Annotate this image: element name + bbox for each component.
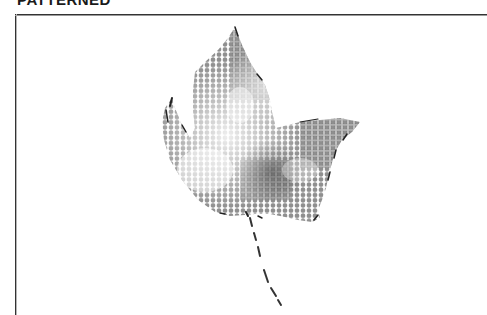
leaf-stem	[250, 218, 281, 305]
leaf-body	[150, 20, 370, 230]
patterned-leaf-image	[0, 0, 487, 315]
